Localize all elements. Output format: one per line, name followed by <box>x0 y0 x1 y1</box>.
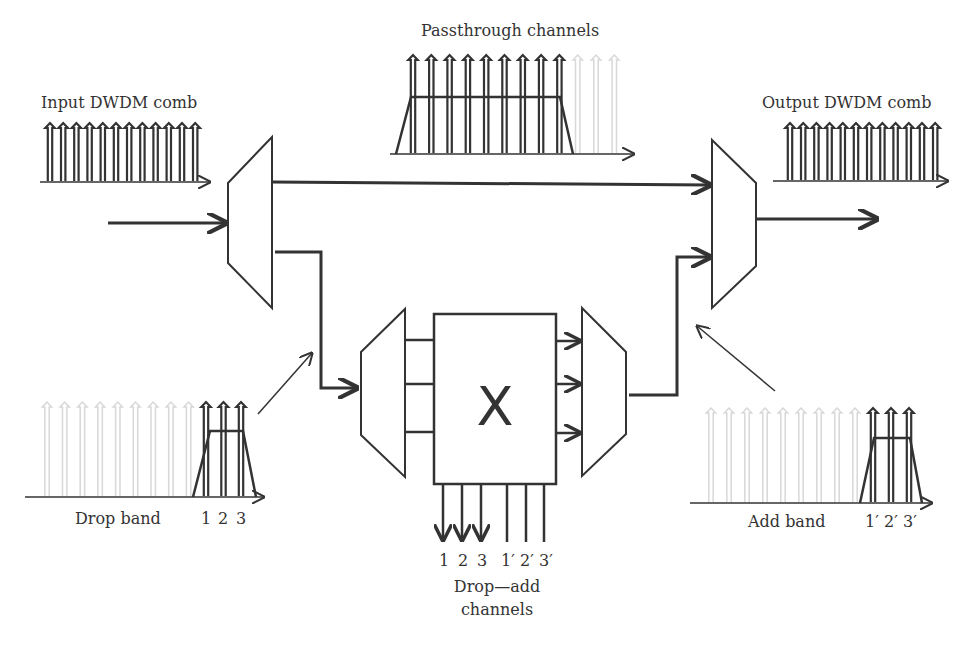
drop-add-ports <box>443 484 544 542</box>
channel-arrow-icon <box>184 402 193 496</box>
channel-arrow-icon <box>151 123 160 181</box>
channel-arrow-icon <box>850 408 859 502</box>
drop-add-label-line1: Drop—add <box>454 577 540 596</box>
channel-arrow-icon <box>838 123 847 180</box>
drop-ch-1: 1 <box>201 509 211 528</box>
add-band-spectrum: Add band 1′ 2′ 3′ <box>690 408 932 531</box>
input-comb-label: Input DWDM comb <box>41 93 197 112</box>
channel-arrow-icon <box>191 123 200 181</box>
channel-arrow-icon <box>78 402 87 496</box>
channel-arrow-icon <box>518 55 527 153</box>
channel-arrow-icon <box>98 123 107 181</box>
drop-band-spectrum: Drop band 1 2 3 <box>25 402 264 528</box>
add-ch-2: 2′ <box>884 512 898 531</box>
channel-arrow-icon <box>904 123 913 180</box>
channel-arrow-icon <box>812 123 821 180</box>
add-ch-1: 1′ <box>865 512 879 531</box>
add-band-arrows <box>706 408 913 502</box>
port-label-2: 2 <box>458 551 468 570</box>
channel-arrow-icon <box>72 123 81 181</box>
channel-arrow-icon <box>610 55 619 153</box>
channel-arrow-icon <box>166 402 175 496</box>
channel-arrow-icon <box>851 123 860 180</box>
demux-to-switch-links <box>405 340 434 432</box>
channel-arrow-icon <box>825 123 834 180</box>
channel-arrow-icon <box>536 55 545 153</box>
drop-band-arrows <box>42 402 245 496</box>
channel-arrow-icon <box>778 408 787 502</box>
channel-arrow-icon <box>45 123 54 181</box>
channel-arrow-icon <box>706 408 715 502</box>
channel-arrow-icon <box>427 55 436 153</box>
drop-add-port-labels: 1 2 3 1′ 2′ 3′ Drop—add channels <box>439 551 553 619</box>
switch-symbol: X <box>477 375 514 438</box>
drop-pointer-arrow <box>258 353 312 414</box>
input-comb-spectrum: Input DWDM comb <box>40 93 210 182</box>
port-label-3p: 3′ <box>539 551 553 570</box>
channel-arrow-icon <box>219 402 228 496</box>
drop-ch-2: 2 <box>218 509 228 528</box>
drop-filter-shape <box>193 431 256 497</box>
channel-arrow-icon <box>177 123 186 181</box>
passthrough-label: Passthrough channels <box>421 21 599 40</box>
channel-arrow-icon <box>814 408 823 502</box>
channel-arrow-icon <box>742 408 751 502</box>
channel-arrow-icon <box>796 408 805 502</box>
drop-band-label: Drop band <box>75 509 161 528</box>
channel-arrow-icon <box>42 402 51 496</box>
input-comb-arrows <box>45 123 200 181</box>
channel-arrow-icon <box>482 55 491 153</box>
cross-connect-switch: X <box>434 314 556 484</box>
channel-arrow-icon <box>799 123 808 180</box>
port-label-1: 1 <box>439 551 449 570</box>
channel-arrow-icon <box>445 55 454 153</box>
channel-arrow-icon <box>917 123 926 180</box>
channel-arrow-icon <box>113 402 122 496</box>
drop-ch-3: 3 <box>236 509 246 528</box>
switch-to-mux-links <box>556 341 580 433</box>
channel-arrow-icon <box>59 123 68 181</box>
band-mux <box>582 308 626 476</box>
express-path <box>272 182 710 185</box>
passthrough-spectrum: Passthrough channels <box>390 21 634 154</box>
channel-arrow-icon <box>724 408 733 502</box>
drop-add-label-line2: channels <box>461 600 533 619</box>
roadm-diagram: Input DWDM comb Output DWDM comb Passthr… <box>0 0 976 647</box>
output-comb-arrows <box>785 123 940 180</box>
channel-arrow-icon <box>886 408 895 502</box>
channel-arrow-icon <box>931 123 940 180</box>
input-demux <box>228 137 272 308</box>
channel-arrow-icon <box>95 402 104 496</box>
port-label-2p: 2′ <box>520 551 534 570</box>
add-ch-3: 3′ <box>903 512 917 531</box>
channel-arrow-icon <box>164 123 173 181</box>
output-mux <box>712 140 756 308</box>
output-comb-label: Output DWDM comb <box>762 93 932 112</box>
channel-arrow-icon <box>500 55 509 153</box>
channel-arrow-icon <box>891 123 900 180</box>
add-pointer-arrow <box>697 326 775 391</box>
add-filter-shape <box>860 438 922 503</box>
channel-arrow-icon <box>125 123 134 181</box>
output-comb-spectrum: Output DWDM comb <box>762 93 948 181</box>
channel-arrow-icon <box>591 55 600 153</box>
port-label-1p: 1′ <box>501 551 515 570</box>
channel-arrow-icon <box>138 123 147 181</box>
channel-arrow-icon <box>463 55 472 153</box>
channel-arrow-icon <box>865 123 874 180</box>
drop-path <box>275 252 357 388</box>
channel-arrow-icon <box>111 123 120 181</box>
port-label-3: 3 <box>477 551 487 570</box>
channel-arrow-icon <box>785 123 794 180</box>
channel-arrow-icon <box>832 408 841 502</box>
channel-arrow-icon <box>149 402 158 496</box>
passthrough-arrows <box>408 55 619 153</box>
channel-arrow-icon <box>573 55 582 153</box>
add-band-label: Add band <box>747 512 825 531</box>
channel-arrow-icon <box>878 123 887 180</box>
channel-arrow-icon <box>760 408 769 502</box>
channel-arrow-icon <box>60 402 69 496</box>
channel-arrow-icon <box>85 123 94 181</box>
band-demux <box>361 309 405 477</box>
channel-arrow-icon <box>131 402 140 496</box>
